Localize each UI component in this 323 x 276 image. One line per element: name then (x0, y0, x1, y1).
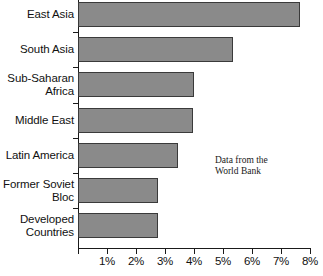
category-label: Developed Countries (20, 213, 74, 238)
source-annotation: Data from the World Bank (215, 155, 268, 177)
category-label: Former Soviet Bloc (3, 178, 74, 203)
value-tick-label: 8% (297, 255, 323, 267)
value-tick (252, 249, 253, 254)
value-tick (223, 249, 224, 254)
category-tick (73, 173, 79, 174)
bar (78, 37, 233, 62)
bar (78, 178, 158, 203)
bar (78, 108, 193, 133)
bar-chart: East AsiaSouth AsiaSub-Saharan AfricaMid… (0, 0, 323, 276)
category-label: Middle East (15, 114, 74, 127)
value-tick (310, 249, 311, 254)
bar (78, 213, 158, 238)
value-tick-label: 7% (268, 255, 294, 267)
value-tick (107, 249, 108, 254)
category-label: South Asia (20, 43, 74, 56)
category-tick (73, 32, 79, 33)
bar (78, 143, 178, 168)
category-tick (73, 208, 79, 209)
category-label: Latin America (6, 149, 74, 162)
value-tick (281, 249, 282, 254)
bar (78, 2, 300, 27)
category-label: East Asia (27, 8, 74, 21)
bar (78, 72, 194, 97)
value-tick-label: 4% (181, 255, 207, 267)
category-tick (73, 67, 79, 68)
category-label: Sub-Saharan Africa (7, 72, 74, 97)
category-tick (73, 103, 79, 104)
value-tick-label: 6% (239, 255, 265, 267)
value-tick (194, 249, 195, 254)
value-tick (136, 249, 137, 254)
value-tick-label: 2% (123, 255, 149, 267)
value-tick-label: 1% (94, 255, 120, 267)
value-tick (165, 249, 166, 254)
category-tick (73, 138, 79, 139)
value-tick-label: 5% (210, 255, 236, 267)
value-tick (78, 249, 79, 254)
value-tick-label: 3% (152, 255, 178, 267)
